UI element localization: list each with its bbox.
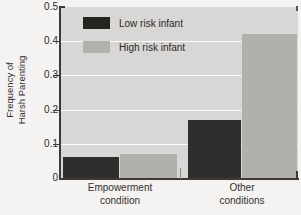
bar-other-high-risk [242, 34, 297, 178]
y-axis-title: Frequency of Harsh Parenting [0, 0, 32, 180]
legend-label-high-risk: High risk infant [119, 42, 185, 53]
bar-other-low-risk [188, 120, 241, 178]
y-tick-label-0: 0 [32, 173, 58, 183]
x-axis-right-cap [296, 171, 298, 179]
y-axis-tick-labels: 0.5 0.4 0.3 0.2 0.1 0 [30, 0, 58, 185]
bar-empowerment-high-risk [120, 154, 177, 178]
x-category-other-line1: Other [229, 182, 254, 193]
x-axis-group-separator-tick [180, 168, 181, 179]
x-category-label-other: Other conditions [186, 182, 298, 207]
x-category-empowerment-line1: Empowerment [88, 182, 152, 193]
legend-label-low-risk: Low risk infant [119, 18, 183, 29]
y-axis-title-line1: Frequency of [4, 62, 15, 117]
legend-item-high-risk: High risk infant [83, 37, 233, 57]
legend-swatch-high-risk [83, 41, 110, 53]
y-axis-top-cap [59, 6, 65, 8]
x-category-empowerment-line2: condition [62, 195, 178, 208]
y-axis-title-text: Frequency of Harsh Parenting [4, 56, 28, 125]
y-axis-line [59, 6, 61, 180]
x-category-other-line2: conditions [186, 195, 298, 208]
plot-right-top-cap [296, 6, 298, 11]
x-axis-line [59, 178, 299, 180]
x-category-label-empowerment: Empowerment condition [62, 182, 178, 207]
plot-area: Low risk infant High risk infant [61, 7, 298, 178]
bar-chart-figure: Frequency of Harsh Parenting 0.5 0.4 0.3… [0, 0, 301, 215]
legend-swatch-low-risk [83, 17, 110, 29]
y-tick-label-0.5: 0.5 [32, 2, 58, 12]
bar-empowerment-low-risk [63, 157, 119, 178]
legend: Low risk infant High risk infant [83, 13, 233, 61]
legend-item-low-risk: Low risk infant [83, 13, 233, 33]
y-axis-title-line2: Harsh Parenting [16, 56, 28, 125]
